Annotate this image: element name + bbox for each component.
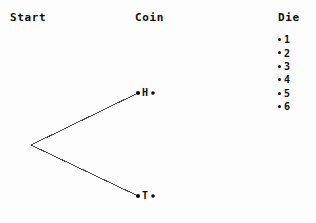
list-item: 4 — [278, 73, 312, 86]
bullet-icon — [278, 105, 281, 108]
list-item: 2 — [278, 46, 312, 59]
list-item: 1 — [278, 33, 312, 46]
node-dot-heads — [136, 91, 140, 95]
branch-line-heads — [31, 93, 138, 145]
bullet-icon — [278, 92, 281, 95]
branch-line-tails — [31, 145, 138, 196]
node-dot-tails-trailing — [151, 194, 155, 198]
die-outcome-value: 5 — [284, 87, 290, 100]
bullet-icon — [278, 38, 281, 41]
bullet-icon — [278, 51, 281, 54]
bullet-icon — [278, 65, 281, 68]
die-outcome-list: 1 2 3 4 5 6 — [278, 33, 312, 113]
node-dot-heads-trailing — [151, 91, 155, 95]
die-outcome-value: 1 — [284, 33, 290, 46]
node-label-heads: H — [142, 88, 148, 98]
list-item: 3 — [278, 60, 312, 73]
tree-diagram-canvas: Start Coin Die H T 1 2 3 4 5 6 — [0, 0, 316, 223]
node-dot-tails — [136, 194, 140, 198]
node-label-tails: T — [142, 191, 148, 201]
die-outcome-value: 2 — [284, 47, 290, 60]
list-item: 5 — [278, 87, 312, 100]
tree-branches-svg — [0, 0, 316, 223]
list-item: 6 — [278, 100, 312, 113]
die-outcome-value: 4 — [284, 73, 290, 86]
die-outcome-value: 6 — [284, 100, 290, 113]
die-outcome-value: 3 — [284, 60, 290, 73]
bullet-icon — [278, 78, 281, 81]
